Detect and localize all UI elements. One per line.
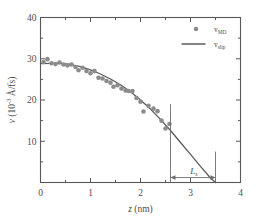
data-point-v-md [53, 62, 58, 67]
data-point-v-md [115, 83, 120, 88]
data-point-v-md [119, 86, 124, 91]
data-point-v-md [100, 76, 105, 81]
data-point-v-md [130, 89, 135, 94]
data-point-v-md [88, 71, 93, 76]
slip-length-label-sub: s [195, 171, 198, 177]
data-point-v-md [146, 103, 151, 108]
fit-line-v-slip [41, 63, 216, 182]
data-point-v-md [92, 69, 97, 74]
data-point-v-md [104, 79, 109, 84]
data-point-v-md [126, 89, 131, 94]
data-point-v-md [96, 75, 101, 80]
legend-label-slip: vslip [214, 40, 226, 50]
y-axis-unit-post: Å/fs) [6, 77, 18, 99]
y-axis-title: v (10-3 Å/fs) [5, 77, 18, 124]
velocity-profile-chart: 0123410203040z (nm)v (10-3 Å/fs)LsvMDvsl… [0, 0, 261, 221]
data-point-v-md [155, 109, 160, 114]
slip-length-arrow-arrowhead-right [211, 175, 216, 180]
x-tick-label: 3 [188, 188, 193, 198]
data-point-v-md [134, 96, 139, 101]
data-point-v-md [41, 60, 46, 65]
y-tick-label: 40 [27, 13, 37, 23]
data-point-v-md [76, 68, 81, 73]
data-point-v-md [111, 85, 116, 90]
data-point-v-md [108, 80, 113, 85]
legend-label-MD: vMD [214, 25, 227, 35]
data-point-v-md [65, 63, 70, 68]
y-tick-label: 10 [27, 137, 37, 147]
legend-label-sub: slip [218, 44, 226, 50]
data-point-v-md [159, 118, 164, 123]
data-point-v-md [163, 126, 168, 131]
data-point-v-md [151, 106, 156, 111]
legend-marker-v-md [194, 27, 199, 32]
data-point-v-md [49, 61, 54, 66]
x-axis-unit: (nm) [132, 204, 153, 215]
data-point-v-md [69, 62, 74, 67]
y-tick-label: 20 [27, 95, 37, 105]
data-point-v-md [61, 62, 66, 67]
x-tick-label: 0 [38, 188, 43, 198]
data-point-v-md [167, 122, 172, 127]
data-point-v-md [138, 99, 143, 104]
y-tick-label: 30 [27, 54, 37, 64]
x-tick-label: 1 [88, 188, 93, 198]
data-point-v-md [141, 109, 146, 114]
x-tick-label: 2 [138, 188, 143, 198]
y-axis-unit-pre: (10 [7, 104, 18, 119]
slip-length-label: Ls [189, 166, 198, 177]
data-point-v-md [57, 60, 62, 65]
x-axis-title: z (nm) [127, 204, 153, 215]
x-tick-label: 4 [238, 188, 243, 198]
data-point-v-md [84, 69, 89, 74]
data-point-v-md [45, 57, 50, 62]
figure-container: 0123410203040z (nm)v (10-3 Å/fs)LsvMDvsl… [0, 0, 261, 221]
legend-label-sub: MD [218, 29, 227, 35]
data-point-v-md [80, 66, 85, 71]
slip-length-arrow-arrowhead-left [171, 175, 176, 180]
